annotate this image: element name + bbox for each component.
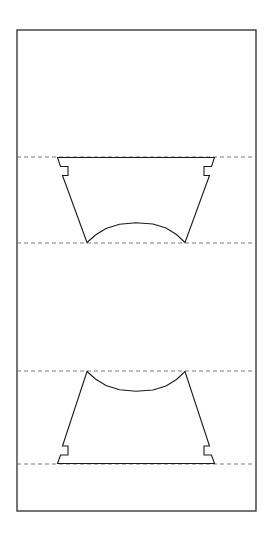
drawing-background <box>0 0 273 534</box>
technical-drawing-canvas <box>0 0 273 534</box>
drawing-svg <box>0 0 273 534</box>
